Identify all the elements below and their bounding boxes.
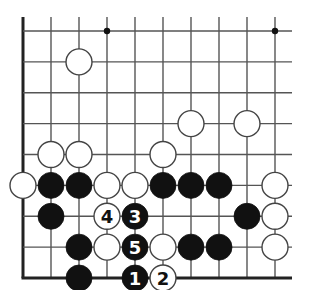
- black-stone: [206, 234, 232, 260]
- move-number-label: 5: [129, 237, 142, 258]
- black-stone-icon: [38, 203, 64, 229]
- white-stone: [94, 234, 120, 260]
- black-stone-icon: [206, 172, 232, 198]
- black-stone: [178, 234, 204, 260]
- white-stone: [262, 172, 288, 198]
- white-stone-icon: [150, 142, 176, 168]
- white-stone: [94, 172, 120, 198]
- white-stone-icon: [94, 234, 120, 260]
- move-number-label: 2: [157, 268, 170, 289]
- black-stone-icon: [178, 172, 204, 198]
- white-stone-icon: [122, 172, 148, 198]
- move-number-label: 1: [129, 268, 142, 289]
- white-stone: [178, 111, 204, 137]
- white-stone: [122, 172, 148, 198]
- white-stone-icon: [262, 203, 288, 229]
- black-stone: [66, 265, 92, 290]
- black-stone-move-5: 5: [122, 234, 148, 260]
- white-stone-icon: [234, 111, 260, 137]
- star-point-icon: [272, 28, 278, 34]
- black-stone-icon: [234, 203, 260, 229]
- white-stone: [66, 49, 92, 75]
- move-number-label: 3: [129, 206, 142, 227]
- black-stone-icon: [150, 172, 176, 198]
- black-stone-move-3: 3: [122, 203, 148, 229]
- white-stone: [262, 203, 288, 229]
- white-stone: [150, 234, 176, 260]
- white-stone-move-2: 2: [150, 265, 176, 290]
- white-stone-icon: [262, 234, 288, 260]
- white-stone-icon: [66, 49, 92, 75]
- white-stone: [234, 111, 260, 137]
- black-stone-icon: [66, 172, 92, 198]
- white-stone-icon: [150, 234, 176, 260]
- black-stone-icon: [178, 234, 204, 260]
- star-point-icon: [104, 28, 110, 34]
- move-number-label: 4: [101, 206, 114, 227]
- white-stone-icon: [178, 111, 204, 137]
- black-stone: [66, 172, 92, 198]
- white-stone-move-4: 4: [94, 203, 120, 229]
- black-stone-icon: [66, 265, 92, 290]
- white-stone-icon: [94, 172, 120, 198]
- white-stone-icon: [262, 172, 288, 198]
- white-stone-icon: [66, 142, 92, 168]
- black-stone: [178, 172, 204, 198]
- black-stone: [234, 203, 260, 229]
- black-stone-icon: [38, 172, 64, 198]
- black-stone: [38, 172, 64, 198]
- black-stone: [206, 172, 232, 198]
- black-stone-icon: [66, 234, 92, 260]
- white-stone: [10, 172, 36, 198]
- black-stone: [150, 172, 176, 198]
- white-stone: [262, 234, 288, 260]
- black-stone-move-1: 1: [122, 265, 148, 290]
- black-stone-icon: [206, 234, 232, 260]
- black-stone: [66, 234, 92, 260]
- white-stone: [66, 142, 92, 168]
- white-stone-icon: [10, 172, 36, 198]
- white-stone: [38, 142, 64, 168]
- white-stone-icon: [38, 142, 64, 168]
- go-board: 43512: [0, 0, 310, 290]
- black-stone: [38, 203, 64, 229]
- white-stone: [150, 142, 176, 168]
